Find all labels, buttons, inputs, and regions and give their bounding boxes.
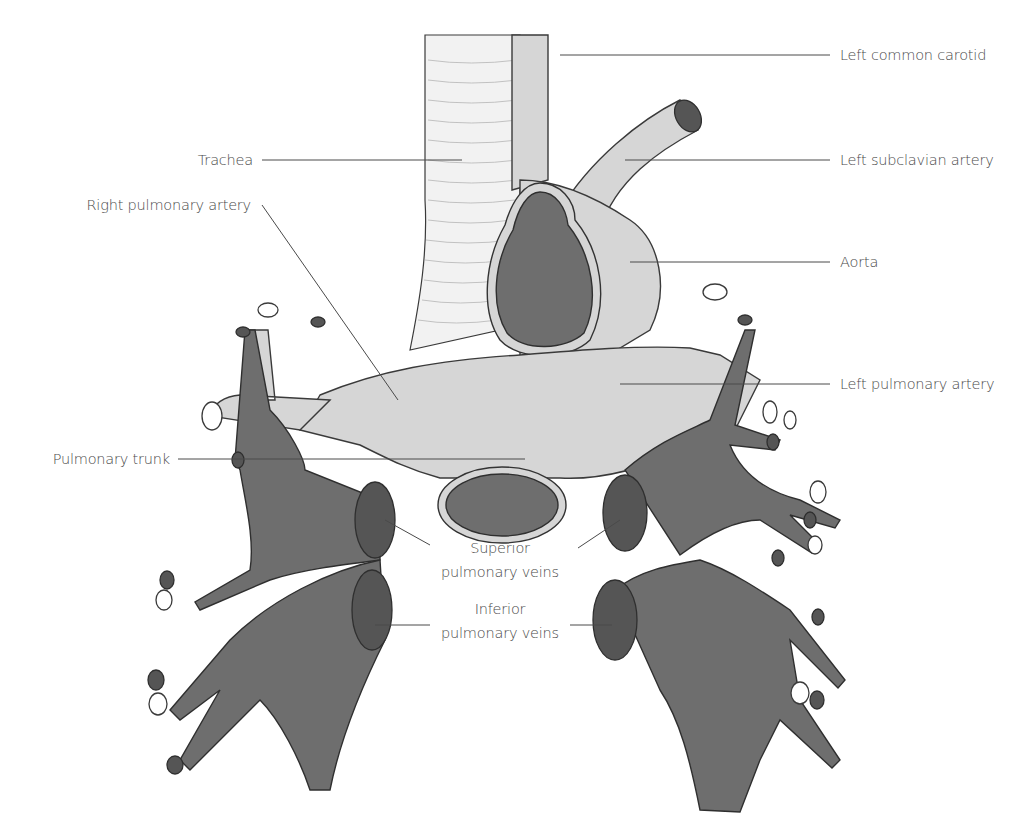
label-aorta: Aorta [840,254,878,270]
label-inferior-pulmonary-veins-line1: Inferior [475,601,526,617]
right-inferior-vein-opening [352,570,392,650]
label-pulmonary-trunk: Pulmonary trunk [53,451,170,467]
label-trachea: Trachea [198,152,253,168]
right-superior-vein-opening [355,482,395,558]
label-left-subclavian-artery: Left subclavian artery [840,152,994,168]
left-inferior-vein-opening [593,580,637,660]
left-superior-vein-opening [603,475,647,551]
label-superior-pulmonary-veins-line2: pulmonary veins [441,564,559,580]
label-left-pulmonary-artery: Left pulmonary artery [840,376,994,392]
pulmonary-anatomy-diagram: Left common carotid Left subclavian arte… [0,0,1033,832]
label-superior-pulmonary-veins-line1: Superior [470,540,530,556]
label-right-pulmonary-artery: Right pulmonary artery [86,197,251,213]
pulmonary-trunk-opening-inner [446,474,558,536]
left-common-carotid [512,35,548,190]
label-inferior-pulmonary-veins-line2: pulmonary veins [441,625,559,641]
label-left-common-carotid: Left common carotid [840,47,986,63]
